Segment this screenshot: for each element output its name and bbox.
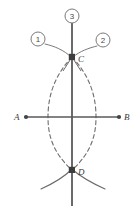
callout-label-2: 2 <box>101 36 106 45</box>
point-marker-c <box>69 54 75 60</box>
callout-label-1: 1 <box>36 35 41 44</box>
leader-line-callout-2 <box>73 46 97 57</box>
point-marker-d <box>69 167 75 173</box>
leader-line-callout-1 <box>45 44 71 57</box>
solid-arc-left-below-d <box>41 170 71 189</box>
construction-diagram-canvas: A B C D 1 2 3 <box>0 0 138 210</box>
point-label-d: D <box>77 167 85 177</box>
dashed-arc-left <box>48 57 72 170</box>
geometry-figure: A B C D 1 2 3 <box>0 0 138 210</box>
dashed-arc-right <box>72 57 96 170</box>
point-marker-a <box>24 115 28 119</box>
point-label-c: C <box>78 54 85 64</box>
callout-label-3: 3 <box>70 12 75 21</box>
point-label-b: B <box>124 112 130 122</box>
point-label-a: A <box>13 112 20 122</box>
point-marker-b <box>117 115 121 119</box>
